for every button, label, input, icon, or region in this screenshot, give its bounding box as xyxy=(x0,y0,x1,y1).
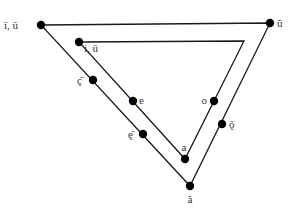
point-label: ǭ xyxy=(229,118,235,130)
point-marker xyxy=(266,19,274,27)
point-marker xyxy=(129,97,137,105)
outer-triangle xyxy=(41,23,270,186)
point-marker xyxy=(37,21,45,29)
vowel-point-outer-bottom: ã xyxy=(186,182,194,205)
point-label: e xyxy=(139,94,144,106)
vowel-points: ī, ūũi, ūç̄eę̄aãoǭ xyxy=(3,17,283,205)
point-marker xyxy=(75,38,83,46)
point-marker xyxy=(139,130,147,138)
point-marker xyxy=(210,97,218,105)
inner-triangle xyxy=(79,41,244,159)
point-label: ũ xyxy=(277,17,283,29)
vowel-point-outer-top-left: ī, ū xyxy=(3,19,45,31)
point-label: a xyxy=(182,141,187,153)
point-marker xyxy=(218,120,226,128)
point-label: o xyxy=(202,94,208,106)
point-marker xyxy=(89,76,97,84)
vowel-point-outer-right-mid: ǭ xyxy=(218,118,235,130)
vowel-point-inner-right-mid: o xyxy=(202,94,219,106)
point-label: ī, ū xyxy=(3,19,19,31)
vowel-triangle-diagram: ī, ūũi, ūç̄eę̄aãoǭ xyxy=(0,0,297,211)
point-label: ç̄ xyxy=(77,74,84,86)
point-marker xyxy=(181,155,189,163)
point-label: ę̄ xyxy=(128,128,135,140)
point-label: i, ū xyxy=(84,42,99,54)
vowel-point-inner-top-left: i, ū xyxy=(75,38,99,54)
point-label: ã xyxy=(188,193,193,205)
point-marker xyxy=(186,182,194,190)
vowel-point-inner-left-mid: e xyxy=(129,94,144,106)
